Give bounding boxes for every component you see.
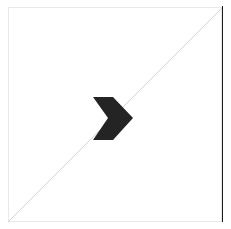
- chevron-layer: [0, 0, 231, 229]
- figure-canvas: [0, 0, 231, 229]
- chevron-right-icon: [93, 97, 133, 140]
